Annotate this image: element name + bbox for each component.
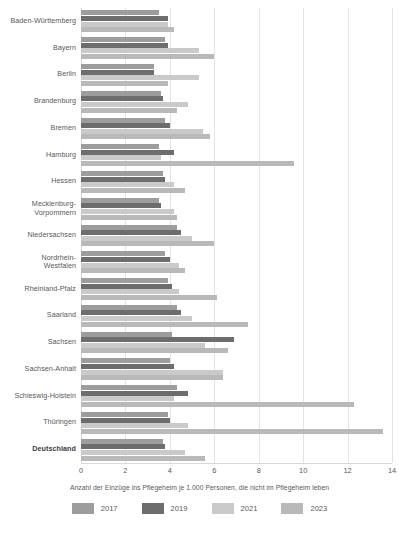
bar-2021 [81,370,223,375]
x-tick-label: 6 [202,466,226,475]
bar-2017 [81,225,177,230]
y-axis-label: Mecklenburg-Vorpommern [0,200,76,217]
bar-2023 [81,268,185,273]
legend-item-2023[interactable]: 2023 [281,503,327,514]
legend-swatch-icon [142,503,164,514]
bar-2017 [81,171,163,176]
bar-2017 [81,144,159,149]
bar-2019 [81,177,165,182]
x-tick-label: 8 [247,466,271,475]
x-tick-label: 10 [291,466,315,475]
bar-2021 [81,423,188,428]
legend-swatch-icon [281,503,303,514]
bar-2023 [81,161,294,166]
bar-2023 [81,456,205,461]
legend-swatch-icon [212,503,234,514]
bar-2017 [81,305,177,310]
bar-2021 [81,75,199,80]
bar-2019 [81,230,181,235]
bar-2021 [81,450,185,455]
bar-2017 [81,251,165,256]
bar-group [81,64,392,86]
legend-label: 2017 [101,504,118,513]
bar-group [81,91,392,113]
bar-2021 [81,48,199,53]
bar-2019 [81,257,170,262]
bar-2019 [81,203,161,208]
y-axis-label: Baden-Württemberg [0,17,76,26]
legend-item-2017[interactable]: 2017 [72,503,118,514]
bar-2023 [81,27,174,32]
bar-2023 [81,348,228,353]
bar-2019 [81,391,188,396]
chart-legend: 2017201920212023 [0,503,399,514]
bar-2019 [81,310,181,315]
bar-2023 [81,322,248,327]
y-axis-label: Nordrhein-Westfalen [0,254,76,271]
y-axis-label: Deutschland [0,445,76,454]
bar-2017 [81,412,168,417]
y-axis-label: Bayern [0,44,76,53]
bar-group [81,332,392,354]
bar-2023 [81,429,383,434]
bar-group [81,118,392,140]
legend-label: 2023 [310,504,327,513]
x-axis-line [81,463,392,464]
bar-2023 [81,241,214,246]
bar-group [81,144,392,166]
bar-2017 [81,385,177,390]
legend-swatch-icon [72,503,94,514]
legend-item-2021[interactable]: 2021 [212,503,258,514]
bar-2019 [81,418,170,423]
bar-group [81,278,392,300]
bar-group [81,385,392,407]
x-tick-label: 4 [158,466,182,475]
bar-2021 [81,155,161,160]
bar-2017 [81,91,161,96]
bar-2023 [81,402,354,407]
legend-label: 2019 [171,504,188,513]
bar-2021 [81,396,174,401]
bar-2019 [81,96,163,101]
bar-group [81,37,392,59]
bar-group [81,439,392,461]
x-axis-title: Anzahl der Einzüge ins Pflegeheim je 1.0… [0,484,399,491]
bar-group [81,412,392,434]
bar-2023 [81,188,185,193]
bar-2021 [81,236,192,241]
y-axis-label: Schleswig-Holstein [0,392,76,401]
bar-2021 [81,102,188,107]
bar-2023 [81,81,168,86]
bar-2019 [81,123,170,128]
plot-area [81,8,392,463]
y-axis-label: Saarland [0,311,76,320]
legend-item-2019[interactable]: 2019 [142,503,188,514]
bar-2021 [81,289,179,294]
bar-group [81,305,392,327]
bar-2023 [81,108,177,113]
bar-2019 [81,70,154,75]
bar-2017 [81,278,168,283]
y-axis-label: Niedersachsen [0,231,76,240]
x-tick-label: 14 [380,466,399,475]
bar-2019 [81,364,174,369]
bar-2017 [81,37,165,42]
bar-group [81,198,392,220]
bar-2019 [81,43,168,48]
bar-2017 [81,10,159,15]
bar-chart: Baden-WürttembergBayernBerlinBrandenburg… [0,0,399,533]
bar-2017 [81,118,165,123]
bar-2019 [81,16,168,21]
bar-2019 [81,150,174,155]
bar-2023 [81,54,214,59]
bar-2021 [81,209,174,214]
x-tick-label: 12 [336,466,360,475]
x-tick-label: 0 [69,466,93,475]
bar-2017 [81,198,159,203]
bar-2023 [81,375,223,380]
bar-2021 [81,343,205,348]
y-axis-category-labels: Baden-WürttembergBayernBerlinBrandenburg… [0,8,76,463]
y-axis-label: Brandenburg [0,97,76,106]
gridline-14 [392,8,393,463]
y-axis-label: Sachsen [0,338,76,347]
